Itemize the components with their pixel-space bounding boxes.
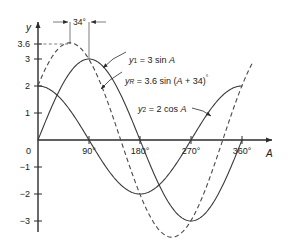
axes-group xyxy=(38,22,272,232)
y-tick-label-1: 1 xyxy=(25,108,30,118)
x-tick-label-360: 360° xyxy=(233,146,252,156)
x-tick-label-180: 180° xyxy=(131,146,150,156)
y-tick-label-minus2: −2 xyxy=(20,189,30,199)
y-tick-label-3.6: 3.6 xyxy=(17,39,30,49)
phase-guides-group xyxy=(38,22,106,59)
chart-svg: 3.6 3 2 1 0 −1 −2 −3 90° 180° 270° 360° … xyxy=(0,0,297,249)
x-axis-label: A xyxy=(265,148,273,159)
y-axis-label: y xyxy=(25,22,32,33)
sinusoid-chart-figure: 3.6 3 2 1 0 −1 −2 −3 90° 180° 270° 360° … xyxy=(0,0,297,249)
y-tick-label-2: 2 xyxy=(25,81,30,91)
y-tick-label-3: 3 xyxy=(25,54,30,64)
y-tick-label-minus3: −3 xyxy=(20,216,30,226)
origin-label: 0 xyxy=(26,146,31,156)
y-tick-label-minus1: −1 xyxy=(20,162,30,172)
phase-shift-annotation: 34° xyxy=(73,17,86,27)
